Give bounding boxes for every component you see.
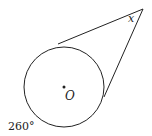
arc-label: 260° bbox=[8, 120, 35, 133]
angle-label: x bbox=[128, 12, 135, 25]
center-label: O bbox=[65, 89, 75, 103]
tangent-circle-diagram: O x 260° bbox=[0, 0, 152, 136]
